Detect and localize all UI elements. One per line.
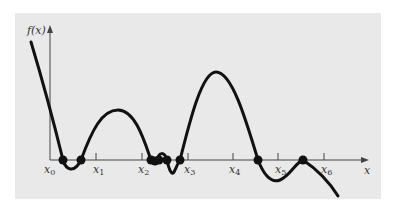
root-point (77, 156, 86, 165)
root-point (163, 156, 172, 165)
tick-label-x6: x6 (321, 164, 332, 177)
y-axis-arrow-icon (47, 25, 53, 33)
root-point (59, 156, 68, 165)
function-plot (0, 0, 398, 220)
x-axis-label: x (364, 165, 370, 176)
tick-label-x0: x0 (44, 164, 55, 177)
tick-marks (96, 153, 324, 160)
tick-label-x2: x2 (138, 164, 149, 177)
root-point (254, 156, 263, 165)
tick-label-x4: x4 (229, 164, 240, 177)
root-point (299, 156, 308, 165)
tick-label-x1: x1 (93, 164, 104, 177)
tick-label-x5: x5 (275, 164, 286, 177)
x-axis-arrow-icon (361, 157, 369, 163)
tick-label-x3: x3 (184, 164, 195, 177)
root-point (155, 156, 164, 165)
y-axis-label: f(x) (27, 25, 46, 36)
